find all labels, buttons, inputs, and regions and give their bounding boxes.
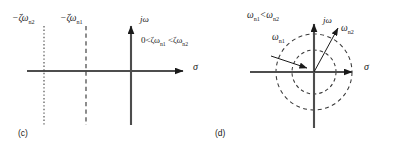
c-real-axis-label: σ bbox=[193, 62, 198, 72]
d-real-axis-label: σ bbox=[364, 62, 369, 72]
omega-n1-vector-label: ωn1 bbox=[272, 33, 285, 43]
d-omega-n1-vector bbox=[271, 56, 307, 68]
c-imag-axis-label: jω bbox=[140, 15, 149, 24]
damping-line-1-label: −ζωn1 bbox=[60, 14, 83, 24]
omega-n2-vector-label: ωn2 bbox=[341, 24, 354, 34]
damping-inequality-annotation: 0<ζωn1 <ζωn2 bbox=[141, 36, 188, 45]
damping-line-2-label: −ζωn2 bbox=[12, 14, 35, 24]
d-omega-n2-vector bbox=[314, 28, 338, 72]
panel-c-tag: (c) bbox=[18, 128, 28, 138]
panel-d-graphics bbox=[250, 24, 352, 128]
panel-d-tag: (d) bbox=[215, 128, 225, 138]
figure-container: −ζωn2 −ζωn1 0<ζωn1 <ζωn2 jω σ (c) ωn1<ωn… bbox=[0, 0, 398, 154]
d-imag-axis-label: jω bbox=[323, 16, 332, 25]
omega-comparison-annotation: ωn1<ωn2 bbox=[247, 11, 279, 21]
